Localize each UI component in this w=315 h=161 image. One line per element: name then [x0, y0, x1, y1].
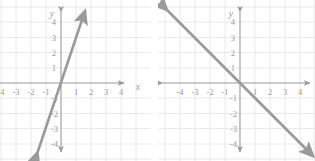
y-tick: -1 [230, 93, 237, 103]
x-tick: -1 [221, 87, 228, 97]
x-tick: 3 [283, 87, 287, 97]
x-tick: -3 [191, 87, 198, 97]
x-tick: 4 [119, 87, 124, 97]
y-tick: -4 [230, 139, 238, 149]
left-x-tick-labels: -4 -3 -2 -1 1 2 3 4 [0, 87, 124, 97]
left-grid [0, 0, 151, 161]
right-graph-svg: -4 -3 -2 -1 1 2 3 4 4 3 2 1 -1 -2 -3 -4 [158, 0, 315, 161]
right-y-axis-label: y [228, 8, 234, 19]
right-coordinate-plane: -4 -3 -2 -1 1 2 3 4 4 3 2 1 -1 -2 -3 -4 [158, 0, 315, 161]
y-tick: -3 [230, 124, 237, 134]
x-tick: 1 [74, 87, 78, 97]
y-tick: 2 [52, 48, 56, 58]
y-tick: 3 [52, 33, 56, 43]
x-tick: 4 [298, 87, 303, 97]
y-tick: 2 [231, 48, 235, 58]
y-tick: -2 [51, 109, 58, 119]
figure-canvas: -4 -3 -2 -1 1 2 3 4 4 3 2 1 -1 -2 -3 -4 [0, 0, 315, 161]
x-tick: -3 [12, 87, 19, 97]
y-tick: -4 [51, 139, 59, 149]
y-tick: -2 [230, 109, 237, 119]
y-tick: 1 [231, 63, 235, 73]
y-tick: -1 [51, 93, 58, 103]
x-tick: 1 [253, 87, 257, 97]
x-tick: 3 [104, 87, 108, 97]
y-tick: 1 [52, 63, 56, 73]
left-y-axis-label: y [49, 8, 55, 19]
x-tick: 2 [268, 87, 272, 97]
x-tick: -2 [27, 87, 34, 97]
left-x-axis-label: x [135, 81, 141, 92]
x-tick: 2 [89, 87, 93, 97]
x-tick: -1 [42, 87, 49, 97]
left-coordinate-plane: -4 -3 -2 -1 1 2 3 4 4 3 2 1 -1 -2 -3 -4 [0, 0, 151, 161]
x-tick: -4 [0, 87, 5, 97]
y-tick: 3 [231, 33, 235, 43]
x-tick: -4 [176, 87, 184, 97]
left-graph-svg: -4 -3 -2 -1 1 2 3 4 4 3 2 1 -1 -2 -3 -4 [0, 0, 151, 161]
x-tick: -2 [206, 87, 213, 97]
y-tick: -3 [51, 124, 58, 134]
